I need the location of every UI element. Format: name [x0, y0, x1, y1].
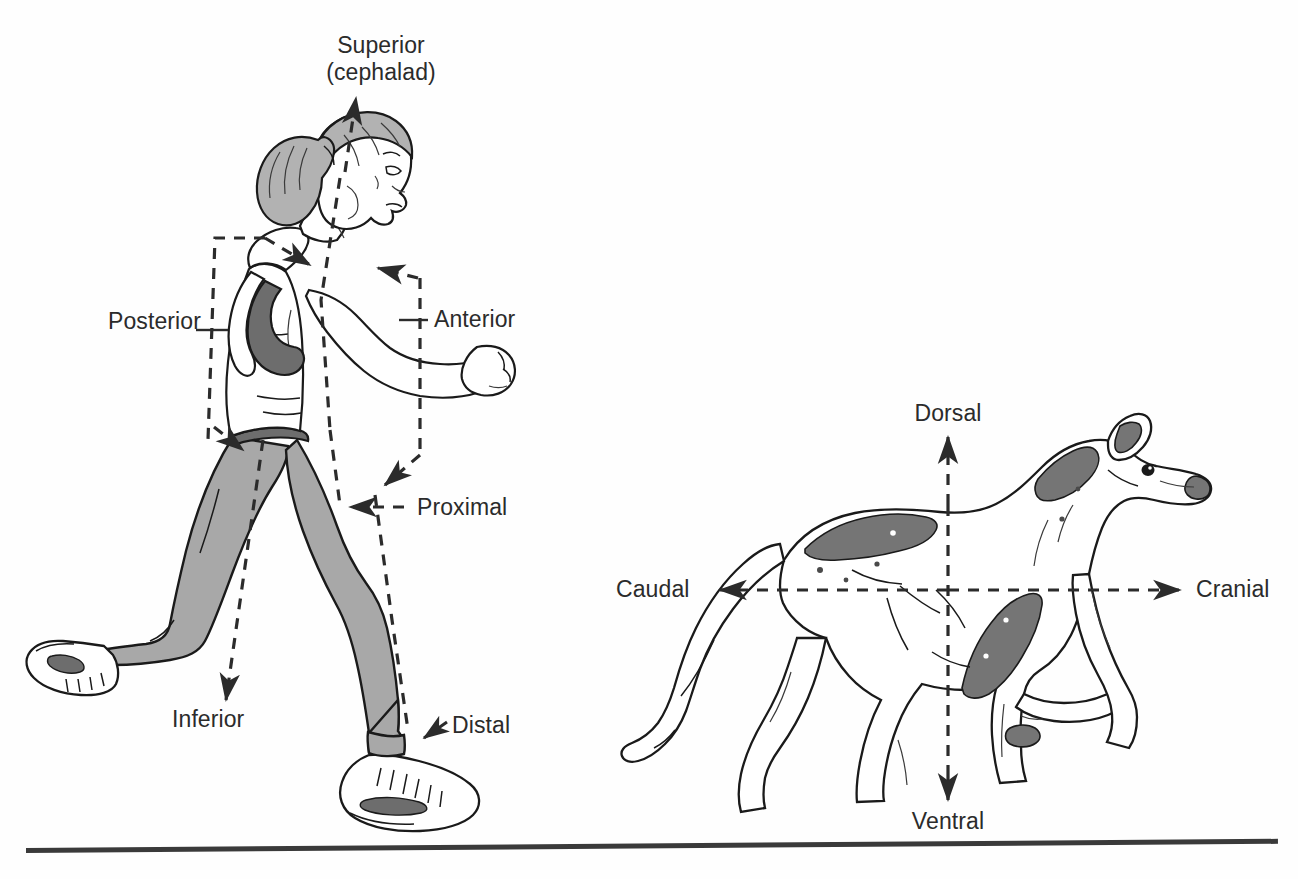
label-superior-line2: (cephalad): [301, 59, 461, 86]
anterior-arrow-lower: [385, 455, 420, 485]
label-proximal: Proximal: [417, 494, 507, 521]
label-dorsal: Dorsal: [888, 400, 1008, 427]
label-ventral: Ventral: [888, 808, 1008, 835]
anterior-arrow-upper: [378, 268, 418, 278]
label-superior-line1: Superior: [301, 32, 461, 59]
label-anterior: Anterior: [434, 306, 515, 333]
figure-artwork: [0, 0, 1298, 879]
label-inferior: Inferior: [172, 706, 244, 733]
label-posterior: Posterior: [108, 308, 201, 335]
running-woman-illustration: [27, 112, 515, 831]
body-axis-mid: [330, 430, 340, 505]
anatomical-directional-terms-figure: Superior (cephalad) Inferior Anterior Po…: [0, 0, 1298, 879]
label-superior: Superior (cephalad): [301, 32, 461, 86]
greyhound-illustration: [621, 414, 1211, 812]
label-cranial: Cranial: [1196, 576, 1270, 603]
label-distal: Distal: [452, 712, 510, 739]
distal-arrow: [424, 722, 447, 738]
label-caudal: Caudal: [616, 576, 690, 603]
